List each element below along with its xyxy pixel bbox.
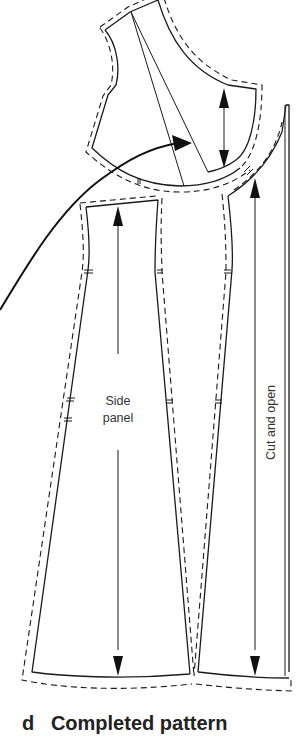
side-panel-piece: Side panel <box>22 196 192 688</box>
front-panel-grainline <box>250 178 260 676</box>
center-gore-piece <box>161 194 232 676</box>
measure-arrow <box>219 88 229 168</box>
side-panel-label-line1: Side <box>105 394 130 408</box>
front-panel-piece: Cut and open <box>196 105 291 691</box>
upper-bodice-piece <box>86 0 262 192</box>
caption-title: Completed pattern <box>51 712 228 734</box>
side-panel-label-line2: panel <box>103 411 134 425</box>
side-panel-grainline <box>113 206 123 676</box>
pattern-diagram: Side panel Cut and open <box>0 0 306 748</box>
caption-letter: d <box>22 712 34 734</box>
figure-caption: d Completed pattern <box>22 712 228 735</box>
cut-and-open-label: Cut and open <box>264 385 278 460</box>
